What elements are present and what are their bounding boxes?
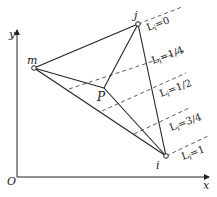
label-P: P: [96, 90, 106, 104]
svg-text:Li=3/4: Li=3/4: [168, 111, 204, 135]
level-label-1-4: Li=1/4: [150, 44, 186, 68]
edge-jP: [104, 24, 138, 88]
edge-iP: [104, 88, 166, 156]
level-label-1-2: Li=1/2: [158, 77, 194, 101]
svg-text:Li=1/4: Li=1/4: [150, 44, 186, 68]
edge-mi: [34, 68, 166, 156]
y-axis-label: y: [8, 28, 16, 41]
label-i: i: [156, 159, 160, 172]
triangle-diagram: m j i P y x O Li=0 Li=1/4 Li=1/2 Li=3/4 …: [0, 0, 217, 197]
node-i: [164, 154, 169, 159]
level-label-3-4: Li=3/4: [168, 111, 204, 135]
x-axis-label: x: [203, 179, 210, 192]
edge-mj: [34, 24, 138, 68]
svg-text:Li=1/2: Li=1/2: [158, 77, 194, 101]
node-j: [136, 22, 141, 27]
label-j: j: [131, 9, 138, 22]
level-label-1: Li=1: [180, 143, 207, 163]
origin-label: O: [7, 175, 16, 188]
edge-mP: [34, 68, 104, 88]
level-label-0: Li=0: [145, 14, 172, 34]
svg-text:Li=1: Li=1: [180, 143, 207, 163]
svg-text:Li=0: Li=0: [145, 14, 172, 34]
label-m: m: [27, 54, 37, 67]
